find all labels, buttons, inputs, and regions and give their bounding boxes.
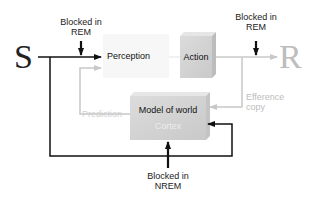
prediction-label: Prediction [82, 109, 122, 119]
perception-label: Perception [107, 51, 150, 61]
model-of-world-node: Model of world Cortex [130, 96, 206, 140]
response-label: R [279, 40, 302, 74]
stimulus-label: S [14, 40, 33, 74]
action-node: Action [180, 36, 212, 78]
blocked-rem-left-label: Blocked in REM [56, 17, 106, 37]
action-label: Action [183, 52, 208, 62]
cortex-label: Cortex [155, 121, 182, 131]
perception-node: Perception [103, 34, 167, 78]
efference-copy-label: Efference copy [246, 92, 284, 112]
blocked-rem-right-label: Blocked in REM [231, 12, 281, 32]
model-label: Model of world [139, 105, 198, 115]
blocked-nrem-label: Blocked in NREM [143, 171, 193, 191]
